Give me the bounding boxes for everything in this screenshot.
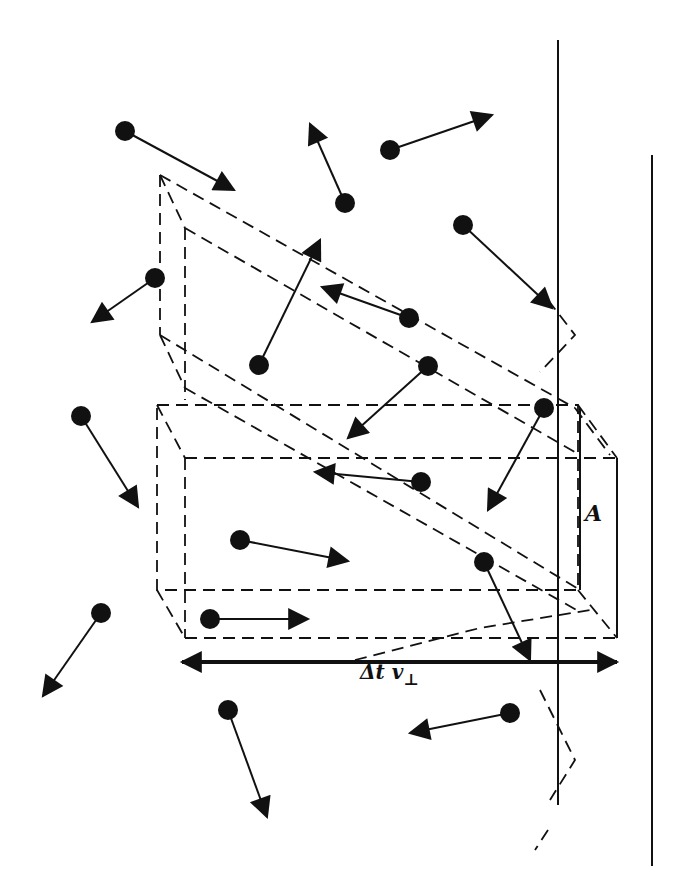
molecule-dot-icon bbox=[249, 355, 269, 375]
molecule bbox=[249, 240, 320, 375]
velocity-arrow-icon bbox=[240, 540, 348, 561]
velocity-arrow-icon bbox=[310, 124, 345, 203]
length-label: Δt v⊥ bbox=[360, 660, 419, 689]
molecule-dot-icon bbox=[411, 472, 431, 492]
molecule-dot-icon bbox=[534, 398, 554, 418]
oblique-prism bbox=[160, 175, 610, 850]
molecules bbox=[43, 115, 554, 817]
molecule-dot-icon bbox=[200, 609, 220, 629]
molecule bbox=[310, 124, 355, 213]
molecule bbox=[115, 121, 234, 190]
velocity-arrow-icon bbox=[488, 408, 544, 510]
velocity-arrow-icon bbox=[463, 225, 552, 308]
molecule-dot-icon bbox=[91, 603, 111, 623]
velocity-arrow-icon bbox=[484, 562, 530, 660]
molecule-dot-icon bbox=[418, 356, 438, 376]
velocity-arrow-icon bbox=[92, 278, 155, 322]
molecule-dot-icon bbox=[335, 193, 355, 213]
perpendicular-subscript: ⊥ bbox=[403, 670, 418, 689]
molecule bbox=[488, 398, 554, 510]
molecule bbox=[322, 287, 419, 328]
molecule bbox=[410, 703, 520, 733]
molecule-dot-icon bbox=[380, 140, 400, 160]
velocity-arrow-icon bbox=[315, 472, 421, 482]
velocity-arrow-icon bbox=[390, 115, 492, 150]
molecule-dot-icon bbox=[115, 121, 135, 141]
molecule-dot-icon bbox=[71, 406, 91, 426]
molecule-dot-icon bbox=[500, 703, 520, 723]
velocity-arrow-icon bbox=[43, 613, 101, 696]
molecule bbox=[453, 215, 552, 308]
straight-prism bbox=[157, 405, 617, 660]
molecule bbox=[92, 268, 165, 322]
area-label: A bbox=[585, 500, 602, 526]
molecule-dot-icon bbox=[399, 308, 419, 328]
molecule bbox=[71, 406, 138, 507]
molecule-dot-icon bbox=[145, 268, 165, 288]
molecule-dot-icon bbox=[218, 700, 238, 720]
walls bbox=[558, 40, 652, 866]
molecule bbox=[230, 530, 348, 561]
length-label-main: Δt v bbox=[360, 660, 403, 684]
molecule bbox=[200, 609, 308, 629]
velocity-arrow-icon bbox=[259, 240, 320, 365]
molecule-dot-icon bbox=[230, 530, 250, 550]
molecule bbox=[43, 603, 111, 696]
molecule bbox=[218, 700, 267, 817]
velocity-arrow-icon bbox=[125, 131, 234, 190]
molecule bbox=[348, 356, 438, 438]
velocity-arrow-icon bbox=[410, 713, 510, 733]
molecule bbox=[380, 115, 492, 160]
gas-molecule-prism-diagram bbox=[0, 0, 687, 893]
velocity-arrow-icon bbox=[348, 366, 428, 438]
diagram-canvas: A Δt v⊥ bbox=[0, 0, 687, 893]
molecule-dot-icon bbox=[453, 215, 473, 235]
velocity-arrow-icon bbox=[228, 710, 267, 817]
molecule-dot-icon bbox=[474, 552, 494, 572]
velocity-arrow-icon bbox=[81, 416, 138, 507]
